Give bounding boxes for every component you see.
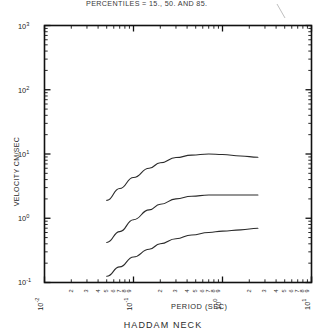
- percentile-curve: [107, 195, 258, 242]
- chart-figure: PERCENTILES = 15., 50. AND 85. VELOCITY …: [0, 0, 330, 336]
- plot-frame: [45, 26, 312, 283]
- scan-artifact-mark: [277, 4, 285, 18]
- data-curves: [107, 154, 258, 276]
- percentile-curve: [107, 228, 258, 276]
- percentile-curve: [107, 154, 258, 200]
- plot-canvas: [0, 0, 330, 336]
- axis-ticks: [45, 26, 312, 283]
